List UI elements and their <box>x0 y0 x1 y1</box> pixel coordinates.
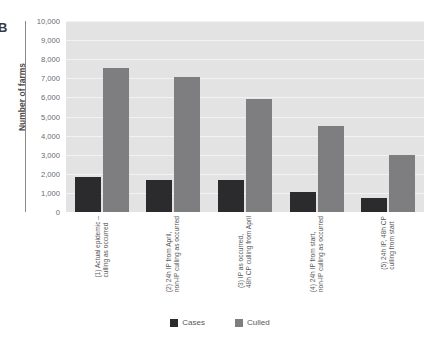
x-category-label-line: non-IP culling as occurred <box>173 216 181 292</box>
legend: CasesCulled <box>0 318 440 327</box>
x-category-label-text: (4) 24h IP from start,non-IP culling as … <box>308 216 325 292</box>
bar-group <box>354 21 422 212</box>
x-category-label-line: 48h CP culling from April <box>245 216 253 288</box>
x-category-label: (1) Actual epidemic –culling as occurred <box>68 213 136 313</box>
bar-cases <box>146 180 172 212</box>
bar-culled <box>103 68 129 212</box>
x-category-label: (2) 24h IP from April,non-IP culling as … <box>139 213 207 313</box>
x-category-label-line: (5) 24h IP, 48h CP <box>380 216 388 270</box>
bar-cases <box>361 198 387 212</box>
bar-culled <box>246 99 272 212</box>
y-tick-label: 0 <box>56 208 60 217</box>
y-tick-label: 3,000 <box>41 150 60 159</box>
x-category-label: (5) 24h IP, 48h CPculling from start <box>354 213 422 313</box>
bar-group <box>211 21 279 212</box>
x-category-label: (3) IP as occurred,48h CP culling from A… <box>211 213 279 313</box>
x-category-label-line: culling from start <box>388 216 396 270</box>
bar-cases <box>75 177 101 212</box>
y-tick-label: 7,000 <box>41 74 60 83</box>
y-tick-label: 1,000 <box>41 188 60 197</box>
panel-letter: B <box>0 20 7 35</box>
bar-culled <box>318 126 344 212</box>
bar-cases <box>218 180 244 212</box>
bar-cases <box>290 192 316 212</box>
x-category-label-line: (3) IP as occurred, <box>237 216 245 288</box>
y-tick-label: 2,000 <box>41 169 60 178</box>
y-tick-label: 5,000 <box>41 112 60 121</box>
x-category-label-line: culling as occurred <box>102 216 110 278</box>
x-category-label-line: non-IP culling as occurred <box>317 216 325 292</box>
bar-culled <box>389 155 415 212</box>
x-category-label-text: (1) Actual epidemic –culling as occurred <box>93 216 110 278</box>
y-tick-label: 4,000 <box>41 131 60 140</box>
y-tick-label: 9,000 <box>41 36 60 45</box>
legend-item: Cases <box>170 318 205 327</box>
legend-swatch-icon <box>170 319 178 327</box>
bar-group <box>139 21 207 212</box>
x-category-label: (4) 24h IP from start,non-IP culling as … <box>283 213 351 313</box>
x-category-label-text: (2) 24h IP from April,non-IP culling as … <box>165 216 182 292</box>
bar-group <box>68 21 136 212</box>
x-category-label-text: (3) IP as occurred,48h CP culling from A… <box>237 216 254 288</box>
legend-label: Cases <box>182 318 205 327</box>
legend-swatch-icon <box>235 319 243 327</box>
figure-panel-b: B Number of farms 10,0009,0008,0007,0006… <box>0 0 440 341</box>
x-category-label-line: (1) Actual epidemic – <box>93 216 101 278</box>
bar-groups <box>66 21 424 212</box>
x-category-label-line: (4) 24h IP from start, <box>308 216 316 292</box>
y-tick-label: 10,000 <box>37 17 60 26</box>
bar-group <box>283 21 351 212</box>
x-category-label-text: (5) 24h IP, 48h CPculling from start <box>380 216 397 270</box>
y-axis-tick-labels: 10,0009,0008,0007,0006,0005,0004,0003,00… <box>26 21 63 212</box>
y-tick-label: 8,000 <box>41 55 60 64</box>
plot-area <box>66 21 424 212</box>
x-axis-category-labels: (1) Actual epidemic –culling as occurred… <box>66 213 424 313</box>
bar-culled <box>174 77 200 212</box>
legend-label: Culled <box>247 318 270 327</box>
legend-item: Culled <box>235 318 270 327</box>
y-tick-label: 6,000 <box>41 93 60 102</box>
